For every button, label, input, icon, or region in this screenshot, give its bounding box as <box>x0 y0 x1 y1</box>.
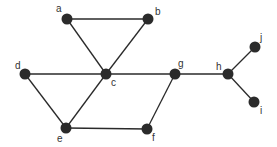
node-b <box>143 14 154 25</box>
node-d <box>20 69 31 80</box>
node-e <box>61 123 72 134</box>
node-f <box>142 124 153 135</box>
edge-h-i <box>228 74 254 102</box>
edges-group <box>25 19 255 129</box>
edge-b-c <box>106 19 148 74</box>
edge-h-j <box>228 47 255 74</box>
node-i <box>249 97 260 108</box>
edge-f-g <box>147 74 175 129</box>
edge-e-f <box>66 128 147 129</box>
node-label-b: b <box>155 6 161 17</box>
node-c <box>101 69 112 80</box>
edge-c-e <box>66 74 106 128</box>
node-g <box>170 69 181 80</box>
node-label-f: f <box>152 132 155 143</box>
node-a <box>62 14 73 25</box>
node-j <box>250 42 261 53</box>
node-label-e: e <box>57 133 63 144</box>
node-label-g: g <box>178 58 184 69</box>
node-label-j: j <box>259 32 262 43</box>
node-label-a: a <box>56 3 62 14</box>
edge-d-e <box>25 74 66 128</box>
node-label-c: c <box>111 77 116 88</box>
graph-diagram: abcdefghji <box>0 0 277 147</box>
node-h <box>223 69 234 80</box>
edge-a-c <box>67 19 106 74</box>
node-label-i: i <box>260 105 262 116</box>
node-label-d: d <box>15 60 21 71</box>
node-label-h: h <box>216 61 222 72</box>
